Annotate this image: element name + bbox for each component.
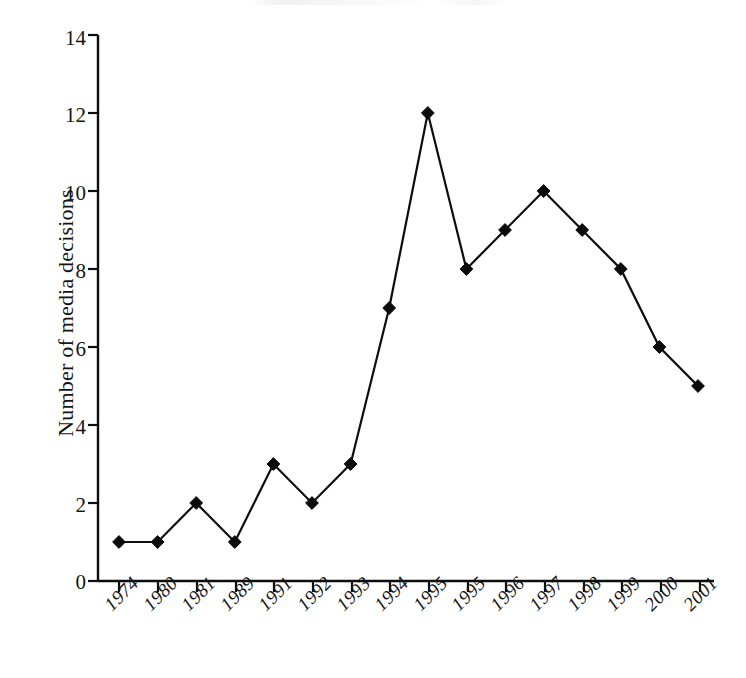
x-tick-label: 1980 — [139, 572, 182, 615]
x-tick-label: 1993 — [332, 572, 375, 615]
x-tick-label: 2001 — [679, 572, 722, 615]
x-tick-label: 1981 — [177, 572, 220, 615]
x-tick-label: 1992 — [293, 572, 336, 615]
x-tick-label: 1999 — [602, 572, 645, 615]
x-tick-label: 1995 — [409, 572, 452, 615]
x-tick-label: 1994 — [370, 572, 413, 615]
x-tick-label: 1974 — [100, 572, 143, 615]
x-tick-label: 2000 — [640, 572, 683, 615]
x-axis-tick-labels: 1974198019811989199119921993199419951995… — [0, 0, 746, 678]
x-tick-label: 1996 — [486, 572, 529, 615]
x-tick-label: 1995 — [447, 572, 490, 615]
x-tick-label: 1998 — [563, 572, 606, 615]
x-tick-label: 1997 — [525, 572, 568, 615]
line-chart: Number of media decisions 14 12 10 8 6 4… — [0, 0, 746, 678]
x-tick-label: 1989 — [216, 572, 259, 615]
x-tick-label: 1991 — [254, 572, 297, 615]
